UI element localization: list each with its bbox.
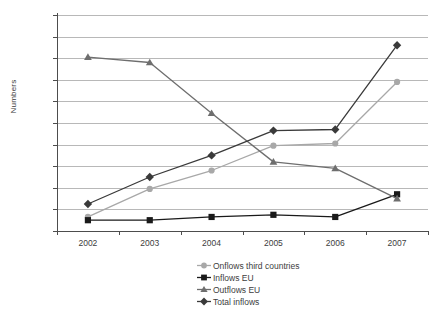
data-point-marker <box>200 298 208 306</box>
gridline <box>57 188 428 189</box>
x-tick-label: 2004 <box>182 238 242 248</box>
x-tick-mark <box>181 231 182 235</box>
gridline <box>57 58 428 59</box>
x-tick-mark <box>304 231 305 235</box>
data-point-marker <box>201 263 207 269</box>
legend-label: Outflows EU <box>212 285 260 295</box>
y-tick-mark <box>53 101 57 102</box>
legend-marker-icon <box>196 284 212 295</box>
x-tick-mark <box>428 231 429 235</box>
gridline <box>57 80 428 81</box>
gridline <box>57 15 428 16</box>
x-tick-label: 2007 <box>367 238 427 248</box>
x-tick-mark <box>57 231 58 235</box>
legend-label: Onflows third countries <box>212 261 299 271</box>
legend-item-outflows-eu[interactable]: Outflows EU <box>196 284 299 295</box>
x-tick-mark <box>243 231 244 235</box>
y-tick-mark <box>53 58 57 59</box>
gridline <box>57 209 428 210</box>
gridline <box>57 166 428 167</box>
y-tick-mark <box>53 145 57 146</box>
legend-item-inflows-eu[interactable]: Inflows EU <box>196 272 299 283</box>
y-axis-line <box>57 13 58 233</box>
x-tick-label: 2006 <box>305 238 365 248</box>
legend-item-total-inflows[interactable]: Total inflows <box>196 296 299 307</box>
gridline <box>57 37 428 38</box>
gridline <box>57 145 428 146</box>
x-tick-label: 2003 <box>120 238 180 248</box>
y-tick-mark <box>53 123 57 124</box>
legend-marker-icon <box>196 260 212 271</box>
y-tick-mark <box>53 37 57 38</box>
line-chart: Numbers 02004006008001 0001 2001 4001 60… <box>0 0 435 329</box>
legend-label: Inflows EU <box>212 273 254 283</box>
y-tick-mark <box>53 15 57 16</box>
legend-marker-icon <box>196 272 212 283</box>
gridlines <box>57 15 428 231</box>
data-point-marker <box>201 275 207 281</box>
x-tick-label: 2002 <box>58 238 118 248</box>
gridline <box>57 123 428 124</box>
legend-item-onflows-third-countries[interactable]: Onflows third countries <box>196 260 299 271</box>
y-axis-title: Numbers <box>9 62 18 132</box>
legend-label: Total inflows <box>212 297 259 307</box>
chart-legend: Onflows third countriesInflows EUOutflow… <box>196 260 299 307</box>
y-tick-mark <box>53 80 57 81</box>
gridline <box>57 101 428 102</box>
y-tick-mark <box>53 209 57 210</box>
y-tick-mark <box>53 166 57 167</box>
y-tick-mark <box>53 188 57 189</box>
legend-marker-icon <box>196 296 212 307</box>
x-tick-mark <box>119 231 120 235</box>
x-tick-mark <box>366 231 367 235</box>
x-tick-label: 2005 <box>243 238 303 248</box>
